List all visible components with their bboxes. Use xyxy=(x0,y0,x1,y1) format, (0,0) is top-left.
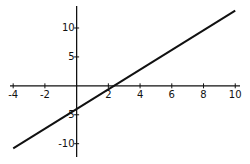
x-tick-label: -4 xyxy=(8,89,18,100)
x-tick-label: 8 xyxy=(200,89,206,100)
y-tick-label: 10 xyxy=(62,22,75,33)
line-chart: -4-2246810105-5-10 xyxy=(0,0,250,164)
x-tick-label: 10 xyxy=(229,89,242,100)
x-tick-label: 6 xyxy=(169,89,175,100)
series-line xyxy=(13,11,235,149)
x-tick-label: 4 xyxy=(137,89,143,100)
y-tick-label: 5 xyxy=(68,51,74,62)
x-tick-label: -2 xyxy=(40,89,50,100)
y-tick-label: -10 xyxy=(58,138,74,149)
